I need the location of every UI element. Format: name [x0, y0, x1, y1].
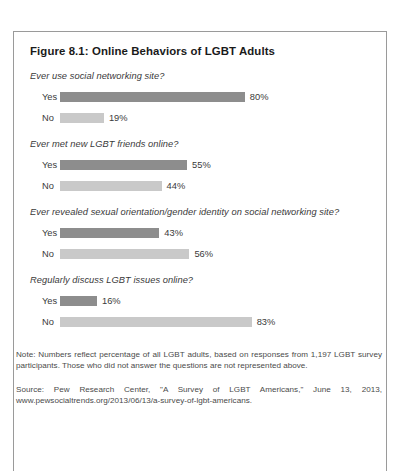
figure-footnotes: Note: Numbers reflect percentage of all …	[16, 349, 382, 407]
question-text: Ever revealed sexual orientation/gender …	[30, 207, 370, 217]
question-text: Ever use social networking site?	[30, 71, 370, 81]
bar-yes	[60, 160, 187, 170]
bar-value-label: 44%	[167, 181, 186, 191]
bar-track: 44%	[60, 181, 370, 191]
bar-row-label: No	[30, 181, 60, 191]
bar-row-label: No	[30, 113, 60, 123]
bar-track: 16%	[60, 296, 370, 306]
bar-row: No83%	[30, 313, 370, 330]
question-group: Ever met new LGBT friends online?Yes55%N…	[30, 139, 370, 194]
question-text: Regularly discuss LGBT issues online?	[30, 275, 370, 285]
bar-value-label: 16%	[102, 296, 121, 306]
question-group: Regularly discuss LGBT issues online?Yes…	[30, 275, 370, 330]
bar-track: 55%	[60, 160, 370, 170]
bar-value-label: 43%	[164, 228, 183, 238]
bar-row: Yes55%	[30, 156, 370, 173]
bar-row-label: Yes	[30, 228, 60, 238]
question-text: Ever met new LGBT friends online?	[30, 139, 370, 149]
bar-yes	[60, 92, 245, 102]
bar-row-label: Yes	[30, 296, 60, 306]
bar-track: 83%	[60, 317, 370, 327]
bar-row-label: Yes	[30, 92, 60, 102]
figure-title: Figure 8.1: Online Behaviors of LGBT Adu…	[30, 45, 370, 57]
bar-row: No44%	[30, 177, 370, 194]
figure-source: Source: Pew Research Center, "A Survey o…	[16, 384, 382, 407]
bar-row-label: No	[30, 317, 60, 327]
question-group: Ever use social networking site?Yes80%No…	[30, 71, 370, 126]
bar-no	[60, 113, 104, 123]
bar-value-label: 56%	[194, 249, 213, 259]
bar-track: 43%	[60, 228, 370, 238]
bar-track: 19%	[60, 113, 370, 123]
bar-row: Yes80%	[30, 88, 370, 105]
bar-row: Yes43%	[30, 224, 370, 241]
bar-row: Yes16%	[30, 292, 370, 309]
bar-yes	[60, 228, 159, 238]
bar-value-label: 83%	[257, 317, 276, 327]
bar-row: No19%	[30, 109, 370, 126]
bar-no	[60, 317, 252, 327]
bar-value-label: 80%	[250, 92, 269, 102]
bar-value-label: 19%	[109, 113, 128, 123]
bar-value-label: 55%	[192, 160, 211, 170]
figure-note: Note: Numbers reflect percentage of all …	[16, 349, 382, 372]
bar-no	[60, 249, 189, 259]
bar-no	[60, 181, 162, 191]
question-group: Ever revealed sexual orientation/gender …	[30, 207, 370, 262]
bar-row-label: Yes	[30, 160, 60, 170]
bar-row: No56%	[30, 245, 370, 262]
bar-yes	[60, 296, 97, 306]
bar-track: 56%	[60, 249, 370, 259]
bar-row-label: No	[30, 249, 60, 259]
bar-track: 80%	[60, 92, 370, 102]
question-groups: Ever use social networking site?Yes80%No…	[30, 71, 370, 330]
